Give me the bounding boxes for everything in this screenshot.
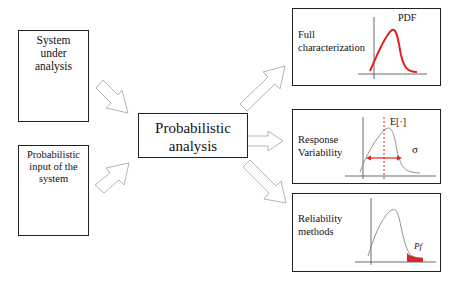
probabilistic-input-box: Probabilistic input of the system bbox=[18, 145, 89, 236]
system-under-analysis-label: System under analysis bbox=[19, 34, 88, 74]
probabilistic-input-label: Probabilistic input of the system bbox=[19, 149, 88, 185]
pdf-label: PDF bbox=[398, 12, 416, 24]
arrow-analysis-to-variability bbox=[247, 131, 283, 151]
response-variability-label: Response Variability bbox=[298, 134, 342, 159]
sigma-label: σ bbox=[412, 143, 418, 156]
arrow-analysis-to-full bbox=[240, 66, 285, 111]
probabilistic-analysis-box: Probabilistic analysis bbox=[138, 113, 248, 158]
arrow-analysis-to-reliability bbox=[243, 160, 286, 203]
response-variability-box: Response Variability E[·] σ bbox=[292, 109, 441, 184]
full-characterization-box: Full characterization PDF bbox=[292, 8, 441, 86]
expectation-label: E[·] bbox=[390, 116, 406, 128]
reliability-methods-label: Reliability methods bbox=[298, 213, 342, 238]
failure-probability-label: Pf bbox=[414, 241, 422, 252]
reliability-methods-box: Reliability methods Pf bbox=[292, 193, 441, 272]
system-under-analysis-box: System under analysis bbox=[18, 30, 89, 122]
full-characterization-label: Full characterization bbox=[298, 29, 365, 54]
arrow-input-to-analysis bbox=[95, 163, 129, 193]
arrow-system-to-analysis bbox=[96, 80, 128, 113]
probabilistic-analysis-label: Probabilistic analysis bbox=[139, 119, 247, 155]
